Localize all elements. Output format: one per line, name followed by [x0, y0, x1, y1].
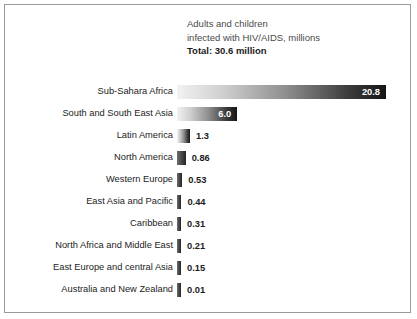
bar-row: Latin America1.3 [5, 127, 412, 149]
bar-category-label: North America [114, 152, 173, 162]
bar-category-label: Caribbean [130, 218, 173, 228]
bar [177, 129, 190, 143]
bar-value-label: 0.86 [192, 153, 210, 163]
bar [177, 151, 186, 165]
chart-title-line-1: Adults and children [187, 17, 320, 31]
bar-row: Sub-Sahara Africa20.8 [5, 83, 412, 105]
bar-chart-plot: Sub-Sahara Africa20.8South and South Eas… [5, 83, 412, 303]
bar-value-label: 6.0 [218, 109, 231, 119]
bar-zone: 1.3 [177, 129, 408, 143]
bar [177, 217, 181, 231]
bar-category-label: Sub-Sahara Africa [98, 86, 173, 96]
bar-row: Australia and New Zealand0.01 [5, 281, 412, 303]
chart-title-block: Adults and children infected with HIV/AI… [187, 17, 320, 58]
bar [177, 283, 181, 297]
bar-row: East Europe and central Asia0.15 [5, 259, 412, 281]
bar-zone: 6.0 [177, 107, 408, 121]
bar-value-label: 0.21 [187, 241, 205, 251]
bar-zone: 0.53 [177, 173, 408, 187]
bar-zone: 0.15 [177, 261, 408, 275]
bar-row: East Asia and Pacific0.44 [5, 193, 412, 215]
bar-category-label: East Asia and Pacific [86, 196, 173, 206]
bar-value-label: 0.01 [187, 285, 205, 295]
bar [177, 85, 386, 99]
bar-value-label: 0.31 [187, 219, 205, 229]
bar [177, 195, 181, 209]
bar-value-label: 0.44 [187, 197, 205, 207]
bar-row: Caribbean0.31 [5, 215, 412, 237]
bar [177, 239, 181, 253]
bar-zone: 0.86 [177, 151, 408, 165]
bar-zone: 0.31 [177, 217, 408, 231]
bar-value-label: 0.15 [187, 263, 205, 273]
chart-frame: Adults and children infected with HIV/AI… [4, 4, 411, 313]
bar-zone: 20.8 [177, 85, 408, 99]
bar-value-label: 0.53 [188, 175, 206, 185]
bar-category-label: Western Europe [106, 174, 173, 184]
chart-title-line-2: infected with HIV/AIDS, millions [187, 31, 320, 45]
bar-row: South and South East Asia6.0 [5, 105, 412, 127]
bar-row: North America0.86 [5, 149, 412, 171]
bar-row: North Africa and Middle East0.21 [5, 237, 412, 259]
chart-total-label: Total: 30.6 million [187, 44, 320, 58]
bar-row: Western Europe0.53 [5, 171, 412, 193]
bar-category-label: Latin America [117, 130, 173, 140]
bar-category-label: North Africa and Middle East [55, 240, 173, 250]
bar-zone: 0.01 [177, 283, 408, 297]
bar-value-label: 20.8 [362, 87, 380, 97]
bar-zone: 0.21 [177, 239, 408, 253]
bar-zone: 0.44 [177, 195, 408, 209]
bar-category-label: Australia and New Zealand [61, 284, 173, 294]
bar [177, 173, 182, 187]
bar-category-label: South and South East Asia [62, 108, 173, 118]
bar-value-label: 1.3 [196, 131, 209, 141]
bar-category-label: East Europe and central Asia [53, 262, 173, 272]
bar [177, 261, 181, 275]
